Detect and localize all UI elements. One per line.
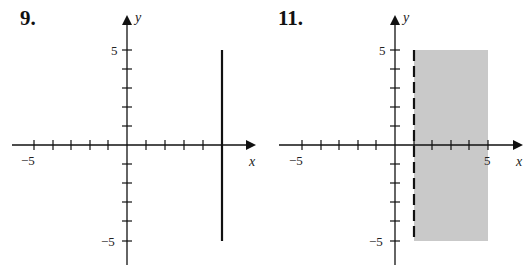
- x-tick-label-neg5: −5: [289, 153, 303, 168]
- graph-panel-11: 11.: [264, 0, 528, 269]
- y-tick-label-5: 5: [111, 43, 118, 58]
- x-axis-label: x: [248, 154, 256, 169]
- y-tick-label-5: 5: [379, 43, 386, 58]
- x-axis-arrow-icon: [513, 140, 523, 150]
- y-tick-label-neg5: −5: [101, 234, 115, 249]
- x-tick-label-5: 5: [484, 153, 491, 168]
- y-axis-arrow-icon: [122, 15, 132, 25]
- coordinate-plane: −5 5 5 −5 x y: [264, 0, 528, 269]
- y-tick-label-neg5: −5: [369, 234, 383, 249]
- x-axis-arrow-icon: [246, 140, 256, 150]
- graph-panel-9: 9.: [0, 0, 264, 269]
- x-axis-label: x: [515, 154, 523, 169]
- y-axis-label: y: [133, 10, 142, 25]
- y-axis-label: y: [401, 10, 410, 25]
- y-axis-arrow-icon: [390, 15, 400, 25]
- coordinate-plane: −5 5 −5 x y: [0, 0, 264, 269]
- x-tick-label-neg5: −5: [21, 153, 35, 168]
